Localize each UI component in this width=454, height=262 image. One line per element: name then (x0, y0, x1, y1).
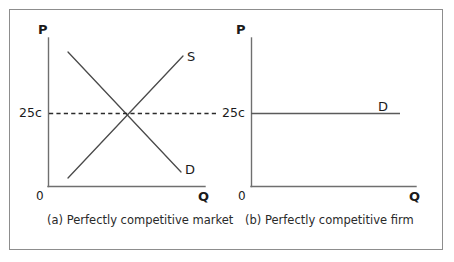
panel-a-y-axis-label: P (38, 23, 48, 36)
panel-b-price-tick-label: 25c (222, 107, 245, 120)
panel-b-caption: (b) Perfectly competitive firm (245, 215, 414, 227)
panel-b-x-axis-label: Q (409, 190, 420, 203)
panel-a-price-tick-label: 25c (19, 107, 42, 120)
panel-a-x-axis-label: Q (198, 190, 209, 203)
demand-curve (68, 52, 181, 172)
panel-a-curves (49, 52, 217, 178)
supply-curve-label: S (187, 50, 195, 63)
panel-b-origin-label: 0 (238, 190, 246, 202)
panel-b-y-axis-label: P (236, 23, 246, 36)
firm-demand-curve-label: D (378, 100, 388, 113)
figure-root: P Q 0 25c S D (a) Perfectly competitive … (0, 0, 454, 262)
supply-curve (68, 56, 183, 178)
panel-a-caption: (a) Perfectly competitive market (47, 215, 233, 227)
demand-curve-label: D (185, 163, 195, 176)
panel-a-origin-label: 0 (36, 190, 44, 202)
panel-b-axes (251, 38, 416, 187)
panel-a-axes (48, 38, 205, 187)
